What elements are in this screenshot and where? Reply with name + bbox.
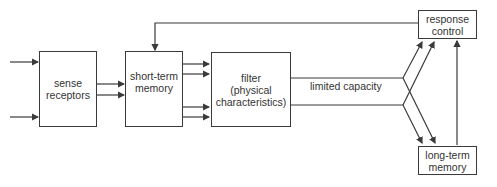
filter-label-2: (physical: [216, 84, 287, 96]
sense-label-2: receptors: [46, 89, 90, 101]
ltm-label-2: memory: [425, 161, 469, 173]
response-control-box: responsecontrol: [418, 10, 477, 39]
filter-box: filter(physicalcharacteristics): [211, 52, 291, 127]
filter-label-3: characteristics): [216, 96, 287, 108]
short-term-memory-box: short-termmemory: [125, 51, 183, 127]
sense-receptors-box: sensereceptors: [39, 51, 97, 127]
sense-label-1: sense: [46, 77, 90, 89]
stm-label-2: memory: [130, 82, 178, 94]
stm-label-1: short-term: [130, 70, 178, 82]
limited-capacity-label: limited capacity: [310, 80, 382, 92]
ltm-label-1: long-term: [425, 149, 469, 161]
response-label-2: control: [426, 25, 469, 37]
filter-label-1: filter: [216, 72, 287, 84]
long-term-memory-box: long-termmemory: [418, 146, 477, 175]
response-label-1: response: [426, 13, 469, 25]
